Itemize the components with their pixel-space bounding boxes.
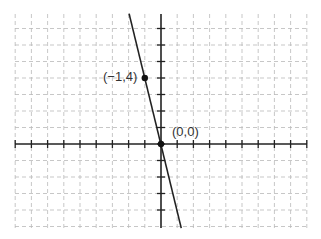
- graph-line: [129, 14, 181, 229]
- point-label-neg1-4: (−1,4): [103, 69, 137, 84]
- axes: [15, 14, 307, 228]
- point-neg1-4: [142, 75, 148, 81]
- point-label-origin: (0,0): [172, 124, 199, 139]
- coordinate-plane: (−1,4) (0,0): [0, 0, 321, 239]
- point-origin: [158, 141, 164, 147]
